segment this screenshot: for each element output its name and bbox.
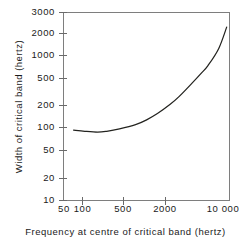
y-tick-label: 1000 [31,50,55,60]
chart-figure: 3000 2000 1000 500 200 100 50 20 10 50 1… [0,0,251,242]
y-tick-label: 100 [37,122,55,132]
y-tick-mark [59,178,67,179]
y-tick-mark [59,105,67,106]
y-tick-mark [59,33,67,34]
y-tick-label: 2000 [31,28,55,38]
y-tick-label: 3000 [31,7,55,17]
x-tick-label: 100 [70,204,95,214]
y-tick-mark [59,55,67,56]
y-tick-label: 200 [37,100,55,110]
y-axis-title: Width of critical band (hertz) [12,12,26,201]
y-tick-label: 20 [43,173,55,183]
x-tick-label: 10 000 [203,204,243,214]
y-tick-label: 500 [37,73,55,83]
x-tick-label: 500 [110,204,136,214]
y-tick-mark [59,200,67,201]
x-axis-title: Frequency at centre of critical band (he… [0,226,251,238]
x-tick-label: 2000 [149,204,181,214]
y-tick-mark [59,150,67,151]
y-tick-label: 50 [43,145,55,155]
y-tick-mark [59,127,67,128]
y-tick-mark [59,12,67,13]
plot-area [63,12,230,201]
y-tick-mark [59,78,67,79]
